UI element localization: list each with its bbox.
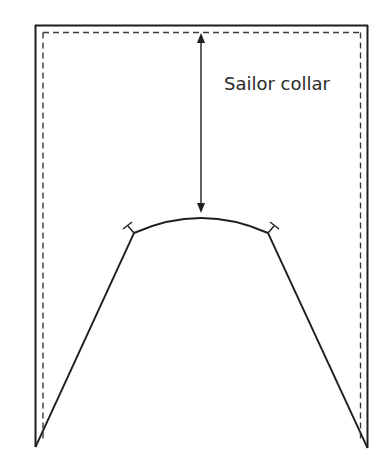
sailor-collar-diagram: Sailor collar [0, 0, 392, 464]
right-shoulder-notch-icon [268, 222, 279, 233]
collar-depth-arrow [197, 33, 205, 213]
front-edge-right [268, 233, 368, 448]
front-edge-left [36, 233, 135, 447]
neckline-curve [134, 218, 268, 233]
sailor-collar-label: Sailor collar [224, 73, 331, 94]
left-shoulder-notch-icon [123, 222, 134, 233]
arrow-up-icon [197, 33, 205, 43]
arrow-down-icon [197, 203, 205, 213]
